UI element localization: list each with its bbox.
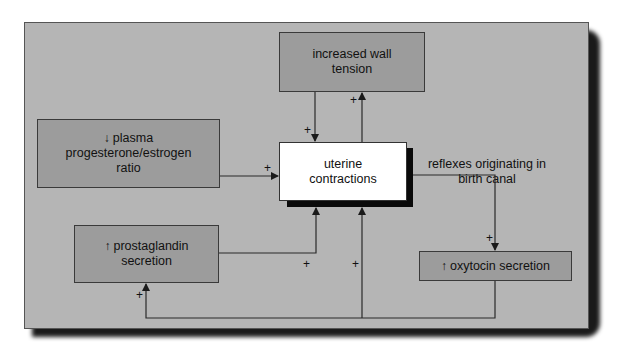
edge-oxytocin-to-prostaglandin bbox=[146, 281, 495, 318]
sign-plus-walltension-uterine: + bbox=[304, 124, 311, 136]
node-label-line: uterine bbox=[324, 157, 362, 171]
sign-plus-progesterone-uterine: + bbox=[264, 162, 271, 174]
sign-plus-uterine-walltension: + bbox=[350, 94, 357, 106]
sign-plus-oxytocin-uterine: + bbox=[352, 258, 359, 270]
sign-plus-uterine-oxytocin: + bbox=[486, 232, 493, 244]
sign-plus-oxytocin-prostaglandin: + bbox=[136, 289, 143, 301]
sign-plus-prostaglandin-uterine: + bbox=[303, 258, 310, 270]
edge-prostaglandin-to-uterine bbox=[219, 208, 316, 253]
edge-uterine-to-oxytocin bbox=[413, 175, 495, 250]
node-uterine-contractions: uterine contractions bbox=[279, 142, 407, 201]
node-label-line: contractions bbox=[309, 172, 376, 186]
